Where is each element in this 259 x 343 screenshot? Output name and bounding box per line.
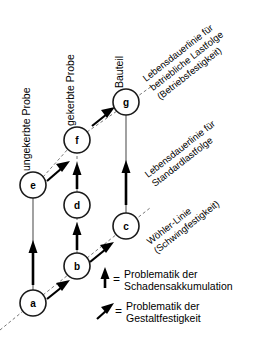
diagonal-labels: Lebensdauerlinie für betriebliche Lastfo… [140,20,232,256]
node-c-label: c [123,221,129,232]
legend-entry-2-line-2: Gestaltfestigkeit [126,312,201,324]
label-ungekerbte-probe: ungekerbte Probe [20,87,32,171]
node-e-label: e [30,180,36,191]
arrow-up-d-f [73,162,82,189]
node-b[interactable]: b [64,253,90,279]
node-e[interactable]: e [20,172,46,198]
legend-entry-1-line-1: Problematik der [124,268,198,280]
arrow-diag-f-g [92,107,115,126]
edge-f-g [87,111,117,132]
node-d-label: d [74,200,80,211]
legend-entry-2-line-1: Problematik der [126,300,200,312]
diagonal-arrow-icon [97,303,114,319]
node-g[interactable]: g [113,89,139,115]
node-b-label: b [74,261,80,272]
arrow-diag-e-f [47,161,70,181]
legend: = Problematik der Schadensakkumulation =… [97,267,233,324]
node-a[interactable]: a [20,290,46,316]
legend-equals-2: = [115,304,122,318]
label-lebensdauerlinie-standard: Lebensdauerlinie für Standardlastfolge [142,118,224,189]
arrow-up-a-e [29,240,38,285]
arrow-up-b-d [73,222,82,250]
arrow-up-c-g [122,160,131,205]
node-g-label: g [123,97,129,108]
node-f[interactable]: f [64,127,90,153]
label-gekerbte-probe: gekerbte Probe [64,54,76,126]
legend-equals-1: = [113,272,120,286]
edge-a-guide [0,312,22,330]
fatigue-strength-diagram: a b c d e f g [0,0,259,343]
node-d[interactable]: d [64,192,90,218]
nodes: a b c d e f g [20,89,139,316]
up-arrow-icon [101,267,110,288]
label-lebensdauerlinie-betriebliche: Lebensdauerlinie für betriebliche Lastfo… [140,20,232,102]
legend-entry-1-line-2: Schadensakkumulation [124,280,233,292]
node-a-label: a [30,298,36,309]
arrow-diag-b-c [90,242,114,262]
diagram-canvas: a b c d e f g [0,0,259,343]
label-bauteil: Bauteil [113,56,125,88]
label-woehler-linie: Wöhler-Linie (Schwingfestigkeit) [144,189,221,256]
arrow-diag-a-b [47,280,70,299]
node-c[interactable]: c [113,213,139,239]
